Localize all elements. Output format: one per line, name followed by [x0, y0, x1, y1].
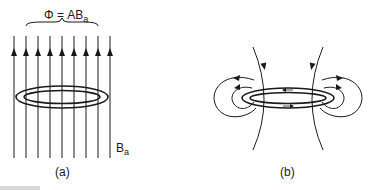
- cropped-caption-fragment: [0, 186, 40, 190]
- flux-diagram: Φ = ABa: [0, 0, 368, 190]
- field-label: Ba: [116, 141, 129, 157]
- panel-b: [214, 47, 362, 150]
- field-line-left: [253, 47, 264, 150]
- current-arrows: [282, 88, 294, 108]
- panel-a: Φ = ABa: [11, 8, 129, 179]
- arrowheads: [11, 48, 113, 56]
- field-line-right: [312, 47, 323, 150]
- caption-a: (a): [55, 165, 70, 179]
- caption-b: (b): [280, 165, 295, 179]
- superconducting-ring-b: [242, 88, 334, 108]
